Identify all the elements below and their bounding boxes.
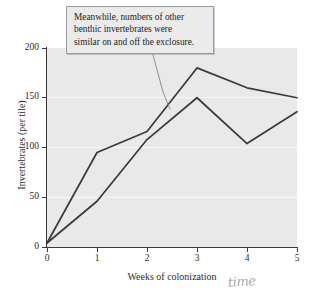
x-tick-label-2: 2 [145, 254, 150, 264]
y-tick-label-0: 0 [34, 242, 39, 252]
y-tick-label-50: 50 [30, 192, 40, 202]
x-tick-label-1: 1 [95, 254, 100, 264]
callout-annotation: Meanwhile, numbers of other benthic inve… [66, 6, 214, 54]
y-axis-title: Invertebrates (per tile) [17, 50, 27, 240]
x-tick-3 [197, 248, 198, 252]
x-axis-title: Weeks of colonization [47, 272, 297, 282]
x-tick-2 [147, 248, 148, 252]
x-tick-label-4: 4 [245, 254, 250, 264]
chart-figure: 200 150 100 50 0 0 1 2 3 4 5 Weeks of co… [0, 0, 316, 299]
y-tick-150 [42, 97, 46, 98]
gridline-50 [47, 197, 297, 198]
y-axis-line [46, 47, 47, 248]
y-tick-50 [42, 197, 46, 198]
gridline-150 [47, 97, 297, 98]
callout-line-2: benthic invertebrates were [74, 23, 207, 35]
callout-line-3: similar on and off the exclosure. [74, 36, 207, 48]
y-tick-0 [42, 247, 46, 248]
x-axis-line [46, 247, 298, 248]
plot-area [47, 48, 297, 247]
x-tick-4 [247, 248, 248, 252]
y-tick-100 [42, 147, 46, 148]
callout-line-1: Meanwhile, numbers of other [74, 11, 207, 23]
x-tick-label-0: 0 [45, 254, 50, 264]
x-tick-0 [47, 248, 48, 252]
x-tick-5 [297, 248, 298, 252]
y-tick-200 [42, 48, 46, 49]
x-tick-label-3: 3 [195, 254, 200, 264]
handwritten-time-note: time [228, 273, 256, 290]
x-tick-1 [97, 248, 98, 252]
gridline-100 [47, 147, 297, 148]
x-tick-label-5: 5 [295, 254, 300, 264]
